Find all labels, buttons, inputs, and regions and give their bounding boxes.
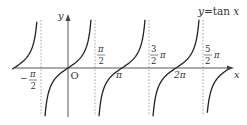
x-axis-arrow-icon — [227, 66, 234, 71]
y-axis-arrow-icon — [66, 14, 71, 21]
svg-text:2: 2 — [151, 56, 156, 66]
tick-label-neg-half-pi: − π 2 — [20, 69, 37, 91]
tick-label-half-pi: π 2 — [97, 44, 105, 66]
tick-label-pi: π — [115, 70, 123, 80]
origin-label: O — [71, 70, 79, 81]
svg-text:π: π — [213, 50, 220, 60]
svg-text:2: 2 — [31, 81, 36, 91]
tan-graph: y x O y=tan x − π 2 π 2 π 3 2 π 2π 5 2 π — [0, 0, 247, 125]
svg-text:2: 2 — [99, 56, 104, 66]
tan-branch — [207, 70, 227, 113]
svg-text:−: − — [20, 73, 28, 83]
svg-text:3: 3 — [151, 44, 156, 54]
tick-label-two-pi: 2π — [173, 70, 187, 80]
svg-text:5: 5 — [205, 44, 210, 54]
svg-text:π: π — [29, 69, 36, 79]
tick-label-three-half-pi: 3 2 π — [150, 44, 166, 66]
svg-text:2: 2 — [205, 56, 210, 66]
tick-label-five-half-pi: 5 2 π — [204, 44, 220, 66]
y-axis-label: y — [57, 10, 64, 21]
curve-label: y=tan x — [197, 5, 239, 17]
svg-text:π: π — [97, 44, 104, 54]
tan-branch — [12, 22, 36, 69]
x-axis-label: x — [234, 69, 240, 80]
svg-text:π: π — [159, 50, 166, 60]
